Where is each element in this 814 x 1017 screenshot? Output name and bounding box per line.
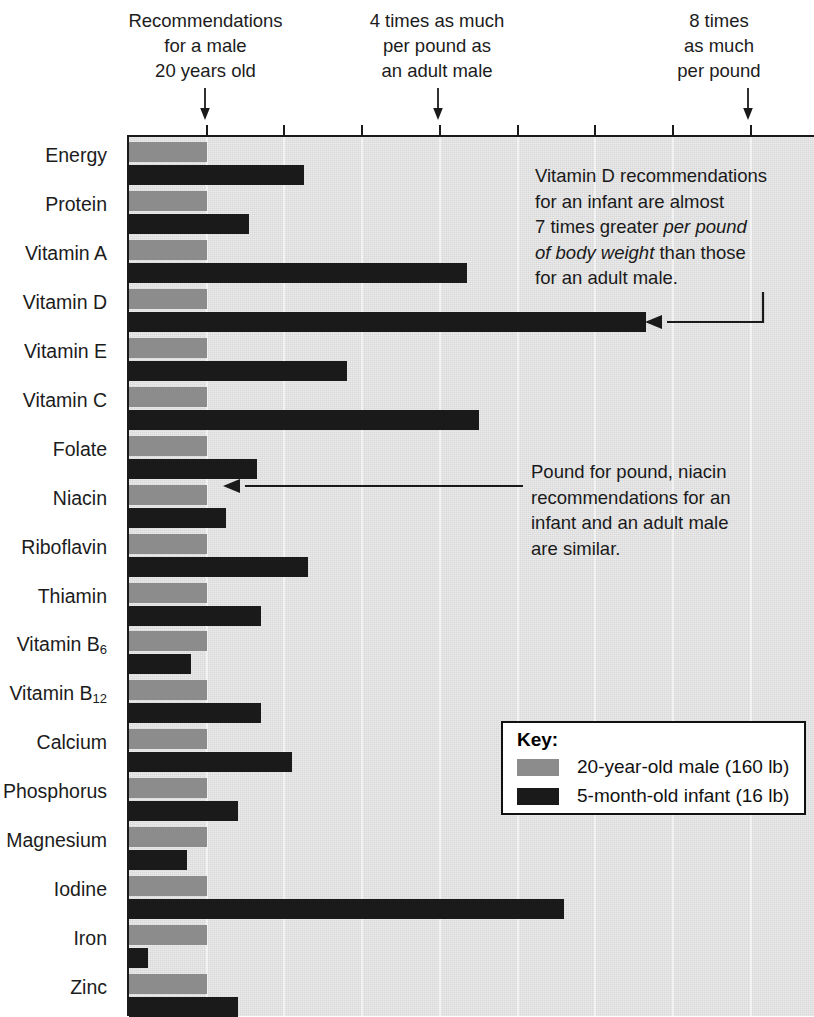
bar-infant	[129, 410, 479, 430]
bar-adult-male	[129, 827, 207, 847]
legend-label-adult-male: 20-year-old male (160 lb)	[577, 756, 789, 778]
annotation-emphasis: per pound	[664, 216, 747, 237]
axis-tick	[517, 125, 519, 137]
category-label-magnesium: Magnesium	[0, 829, 107, 852]
bar-infant	[129, 557, 308, 577]
bar-infant	[129, 997, 238, 1017]
category-label-energy: Energy	[0, 144, 107, 167]
niacin-annotation: Pound for pound, niacin recommendations …	[531, 459, 809, 561]
axis-tick	[439, 125, 441, 137]
annotation-line: for an infant are almost	[535, 191, 724, 212]
recommendations-note: Recommendations for a male 20 years old	[78, 8, 333, 83]
four-times-note: 4 times as much per pound as an adult ma…	[318, 8, 556, 83]
bar-adult-male	[129, 974, 207, 994]
bar-infant	[129, 801, 238, 821]
legend-swatch-infant	[517, 788, 559, 805]
bar-adult-male	[129, 876, 207, 896]
bar-adult-male	[129, 387, 207, 407]
bar-adult-male	[129, 680, 207, 700]
bar-infant	[129, 752, 292, 772]
legend-label-infant: 5-month-old infant (16 lb)	[577, 785, 789, 807]
bar-adult-male	[129, 534, 207, 554]
bar-infant	[129, 214, 249, 234]
category-label-vitamin-d: Vitamin D	[0, 291, 107, 314]
annotation-line: Pound for pound, niacin	[531, 461, 726, 482]
category-label-vitamin-c: Vitamin C	[0, 389, 107, 412]
legend-title: Key:	[517, 729, 558, 751]
eight-times-note: 8 times as much per pound	[630, 8, 808, 83]
bar-adult-male	[129, 583, 207, 603]
bar-adult-male	[129, 289, 207, 309]
annotation-line: 7 times greater	[535, 216, 664, 237]
category-label-vitamin-a: Vitamin A	[0, 242, 107, 265]
bar-infant	[129, 263, 467, 283]
vitamin-d-annotation: Vitamin D recommendations for an infant …	[535, 163, 810, 291]
bar-adult-male	[129, 436, 207, 456]
annotation-line: for an adult male.	[535, 267, 678, 288]
axis-tick	[283, 125, 285, 137]
category-label-calcium: Calcium	[0, 731, 107, 754]
axis-tick	[594, 125, 596, 137]
bar-infant	[129, 606, 261, 626]
category-label-riboflavin: Riboflavin	[0, 536, 107, 559]
category-label-iron: Iron	[0, 927, 107, 950]
category-label-folate: Folate	[0, 438, 107, 461]
category-label-vitamin-b12: Vitamin B12	[0, 682, 107, 706]
bar-adult-male	[129, 191, 207, 211]
annotation-line: Vitamin D recommendations	[535, 165, 767, 186]
bar-infant	[129, 508, 226, 528]
bar-adult-male	[129, 778, 207, 798]
bar-infant	[129, 654, 191, 674]
category-label-iodine: Iodine	[0, 878, 107, 901]
category-label-zinc: Zinc	[0, 976, 107, 999]
gridline	[517, 137, 519, 1016]
annotation-line: are similar.	[531, 538, 620, 559]
legend-key-box: Key: 20-year-old male (160 lb) 5-month-o…	[501, 721, 806, 815]
down-arrow-icon	[198, 88, 212, 120]
bar-adult-male	[129, 631, 207, 651]
bar-infant	[129, 165, 304, 185]
bar-infant	[129, 361, 347, 381]
bar-adult-male	[129, 240, 207, 260]
bar-infant	[129, 703, 261, 723]
bar-adult-male	[129, 142, 207, 162]
bar-infant	[129, 899, 564, 919]
axis-tick	[750, 125, 752, 137]
bar-infant	[129, 312, 646, 332]
category-label-vitamin-b6: Vitamin B6	[0, 633, 107, 657]
category-label-thiamin: Thiamin	[0, 585, 107, 608]
annotation-line: than those	[654, 242, 746, 263]
bar-adult-male	[129, 729, 207, 749]
bar-adult-male	[129, 485, 207, 505]
down-arrow-icon	[741, 88, 755, 120]
category-label-protein: Protein	[0, 193, 107, 216]
axis-tick	[361, 125, 363, 137]
annotation-emphasis: of body weight	[535, 242, 654, 263]
category-label-phosphorus: Phosphorus	[0, 780, 107, 803]
axis-tick	[672, 125, 674, 137]
bar-infant	[129, 850, 187, 870]
category-label-niacin: Niacin	[0, 487, 107, 510]
vitamin-d-leader-line	[645, 292, 770, 334]
legend-swatch-adult-male	[517, 759, 559, 776]
category-label-vitamin-e: Vitamin E	[0, 340, 107, 363]
niacin-leader-line	[223, 475, 523, 497]
bar-adult-male	[129, 925, 207, 945]
down-arrow-icon	[431, 88, 445, 120]
axis-tick	[206, 125, 208, 137]
bar-adult-male	[129, 338, 207, 358]
annotation-line: recommendations for an	[531, 487, 731, 508]
bar-infant	[129, 948, 148, 968]
annotation-line: infant and an adult male	[531, 512, 728, 533]
